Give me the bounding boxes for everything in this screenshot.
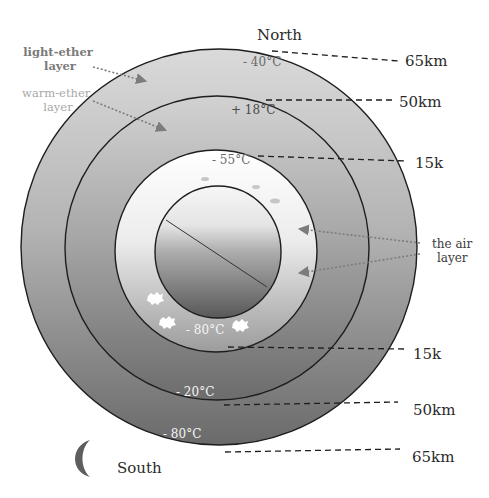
air-layer-label-line1: the air xyxy=(432,237,472,251)
north-altitude-15k: 15k xyxy=(415,154,444,172)
air-layer-label: the air layer xyxy=(432,237,476,265)
south-label: South xyxy=(117,459,162,477)
layer-circles xyxy=(21,49,417,445)
crescent-moon-icon xyxy=(75,440,90,477)
earth-core-circle xyxy=(155,186,281,318)
temp-warm-ether-south: - 20°C xyxy=(176,385,214,399)
warm-ether-label-line1: warm-ether xyxy=(22,86,91,100)
cloud-icon xyxy=(252,185,260,189)
air-layer-label-line2: layer xyxy=(437,251,468,265)
temp-air-south: - 80°C xyxy=(186,323,224,337)
temp-air-north: - 55°C xyxy=(212,153,250,167)
north-altitude-65km: 65km xyxy=(405,52,447,70)
warm-ether-label-line2: layer xyxy=(43,100,73,114)
temp-light-ether-south: - 80°C xyxy=(163,427,201,441)
atmosphere-layers-diagram: North South light-ether layer warm-ether… xyxy=(0,0,489,498)
light-ether-label: light-ether layer xyxy=(23,45,97,73)
south-65km-line xyxy=(225,449,400,452)
north-altitude-50km: 50km xyxy=(399,93,441,111)
cloud-icon xyxy=(201,177,209,181)
south-altitude-15k: 15k xyxy=(413,345,442,363)
temp-light-ether-north: - 40°C xyxy=(243,55,281,69)
temp-warm-ether-north: + 18°C xyxy=(231,103,275,117)
north-65km-line xyxy=(272,51,398,61)
light-ether-label-line1: light-ether xyxy=(23,45,94,59)
south-altitude-50km: 50km xyxy=(413,401,455,419)
south-altitude-65km: 65km xyxy=(412,448,454,466)
north-label: North xyxy=(257,26,302,44)
cloud-icon xyxy=(270,199,280,204)
light-ether-label-line2: layer xyxy=(44,59,77,73)
